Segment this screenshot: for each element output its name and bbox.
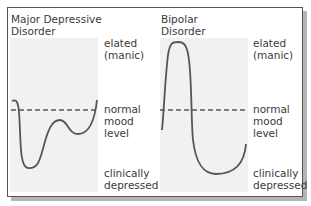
mood-curves — [0, 0, 311, 206]
bipolar-mood-curve — [162, 42, 246, 174]
